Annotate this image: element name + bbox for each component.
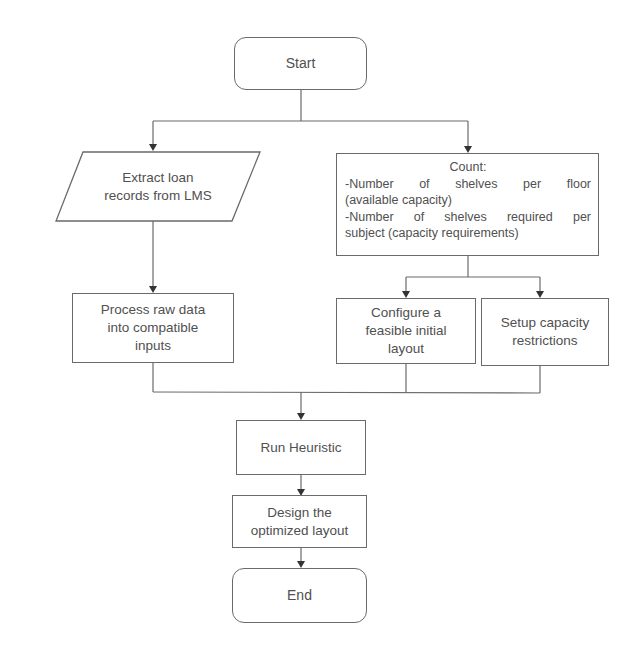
configure-line3: layout bbox=[365, 340, 446, 358]
setup-line2: restrictions bbox=[501, 332, 590, 350]
count-node: Count: -Number of shelves per floor (ava… bbox=[336, 153, 599, 256]
process-raw-line2: into compatible bbox=[101, 319, 205, 337]
run-heuristic-label: Run Heuristic bbox=[260, 439, 341, 456]
extract-loan-records-node: Extract loan records from LMS bbox=[55, 151, 261, 222]
process-raw-line3: inputs bbox=[101, 337, 205, 355]
start-label: Start bbox=[286, 55, 316, 72]
end-terminal: End bbox=[232, 568, 367, 623]
extract-label-line1: Extract loan bbox=[104, 169, 211, 187]
process-raw-line1: Process raw data bbox=[101, 301, 205, 319]
setup-capacity-restrictions-node: Setup capacity restrictions bbox=[481, 298, 609, 366]
configure-line1: Configure a bbox=[365, 304, 446, 322]
count-title: Count: bbox=[345, 159, 591, 176]
design-line2: optimized layout bbox=[251, 522, 349, 540]
count-line-2: (available capacity) bbox=[345, 192, 591, 209]
start-terminal: Start bbox=[234, 37, 367, 90]
count-line-1: -Number of shelves per floor bbox=[345, 176, 591, 193]
extract-label-line2: records from LMS bbox=[104, 187, 211, 205]
design-line1: Design the bbox=[251, 504, 349, 522]
end-label: End bbox=[287, 587, 312, 604]
count-line-3: -Number of shelves required per bbox=[345, 209, 591, 226]
run-heuristic-node: Run Heuristic bbox=[236, 420, 366, 475]
process-raw-data-node: Process raw data into compatible inputs bbox=[72, 293, 234, 363]
configure-layout-node: Configure a feasible initial layout bbox=[336, 298, 476, 364]
flowchart-canvas: Start Extract loan records from LMS Coun… bbox=[0, 0, 628, 653]
design-optimized-layout-node: Design the optimized layout bbox=[232, 495, 367, 548]
setup-line1: Setup capacity bbox=[501, 314, 590, 332]
count-line-4: subject (capacity requirements) bbox=[345, 225, 591, 242]
configure-line2: feasible initial bbox=[365, 322, 446, 340]
